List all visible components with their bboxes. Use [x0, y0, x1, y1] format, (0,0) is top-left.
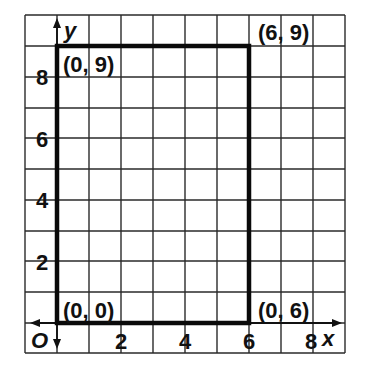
origin-label: O [31, 328, 48, 353]
y-tick-2: 2 [36, 250, 48, 275]
y-axis-label: y [63, 18, 78, 43]
x-axis-left-arrow-icon [30, 319, 40, 327]
x-axis-label: x [321, 326, 335, 351]
x-tick-2: 2 [115, 329, 127, 354]
y-tick-4: 4 [36, 188, 49, 213]
y-tick-8: 8 [36, 65, 48, 90]
coordinate-grid-figure: y x O 2 4 6 8 8 6 4 2 (0, 9) (6, 9) (0, … [0, 0, 366, 371]
vertex-label-top-left: (0, 9) [63, 52, 114, 77]
y-tick-6: 6 [36, 127, 48, 152]
vertex-label-top-right: (6, 9) [258, 20, 309, 45]
x-tick-8: 8 [305, 329, 317, 354]
vertex-label-bottom-right: (0, 6) [258, 298, 309, 323]
vertex-label-bottom-left: (0, 0) [63, 298, 114, 323]
y-axis-up-arrow-icon [53, 18, 61, 28]
x-tick-6: 6 [243, 329, 255, 354]
y-axis-down-arrow-icon [53, 339, 61, 349]
x-tick-4: 4 [179, 329, 192, 354]
